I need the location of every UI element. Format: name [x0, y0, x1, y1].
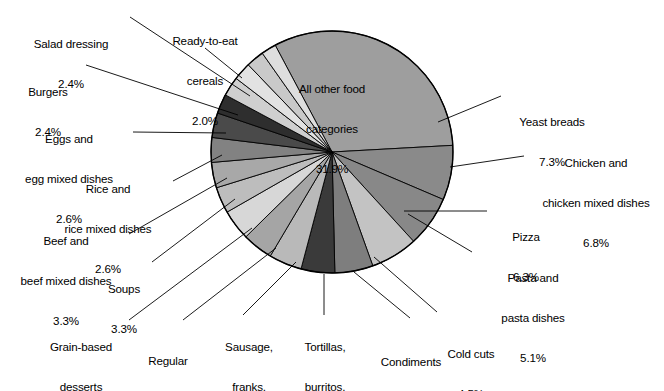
slice-label-percent: 31.9%	[268, 162, 396, 175]
leader-line-cold-cuts	[374, 257, 437, 312]
slice-label-percent: 5.1%	[478, 351, 588, 364]
slice-label-line2: burritos,	[291, 380, 359, 391]
slice-label-line1: Sausage,	[208, 340, 290, 353]
slice-label-line2: pasta dishes	[478, 311, 588, 324]
slice-label-name: Salad dressing	[12, 37, 130, 50]
slice-label-line1: Beef and	[3, 234, 129, 247]
slice-label-line1: Tortillas,	[291, 340, 359, 353]
slice-label-name: Burgers	[12, 85, 84, 98]
slice-label-line1: Ready-to-eat	[148, 34, 262, 47]
leader-line-sausage	[243, 262, 296, 315]
slice-label-sausage-franks-bacon-ribs: Sausage, franks, bacon, ribs 4.1%	[208, 313, 290, 391]
slice-label-name: Yeast breads	[504, 115, 600, 128]
slice-label-line1: All other food	[268, 82, 396, 95]
slice-label-line1: Grain-based	[32, 340, 130, 353]
slice-label-line2: categories	[268, 122, 396, 135]
slice-label-line1: Regular	[134, 354, 202, 367]
slice-label-percent: 2.0%	[148, 114, 262, 127]
slice-label-line1: Eggs and	[6, 132, 132, 145]
slice-label-regular-cheese: Regular cheese 3.5%	[134, 327, 202, 391]
leader-line-regular-cheese	[183, 248, 276, 320]
slice-label-line1: Chicken and	[526, 156, 664, 169]
slice-label-line2: cereals	[148, 74, 262, 87]
pie-chart-figure: All other food categories 31.9% Salad dr…	[0, 0, 664, 391]
slice-label-line2: desserts	[32, 380, 130, 391]
slice-label-all-other-food-categories: All other food categories 31.9%	[268, 55, 396, 202]
slice-label-grain-based-desserts: Grain-based desserts 3.4%	[32, 313, 130, 391]
leader-line-yeast-breads	[438, 96, 501, 122]
slice-label-ready-to-eat-cereals: Ready-to-eat cereals 2.0%	[148, 7, 262, 154]
slice-label-line1: Pasta and	[478, 271, 588, 284]
leader-line-condiments	[354, 272, 410, 318]
slice-label-pasta-and-pasta-dishes: Pasta and pasta dishes 5.1%	[478, 244, 588, 391]
slice-label-name: Soups	[96, 282, 152, 295]
slice-label-line1: Rice and	[44, 182, 172, 195]
slice-label-line2: franks,	[208, 380, 290, 391]
slice-label-name: Pizza	[494, 230, 558, 243]
slice-label-tortillas-burritos-tacos: Tortillas, burritos, tacos 4.1%	[291, 313, 359, 391]
